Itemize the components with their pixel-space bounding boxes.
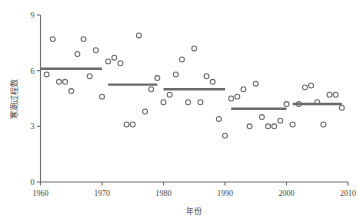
data-point: [253, 81, 258, 86]
data-point: [247, 124, 252, 129]
data-point: [241, 87, 246, 92]
y-tick-label: 6: [31, 67, 35, 76]
data-point: [143, 109, 148, 114]
x-tick-label: 2010: [340, 189, 356, 198]
data-point: [118, 61, 123, 66]
data-point: [81, 37, 86, 42]
data-point: [167, 92, 172, 97]
data-point: [278, 118, 283, 123]
data-point: [284, 102, 289, 107]
chart-container: 0369196019701980199020002010年份寒潮过程数: [0, 0, 357, 222]
data-point: [75, 52, 80, 57]
data-point: [149, 87, 154, 92]
data-point: [100, 94, 105, 99]
data-point: [290, 122, 295, 127]
data-point: [339, 105, 344, 110]
y-axis-title: 寒潮过程数: [9, 79, 19, 119]
data-point: [259, 115, 264, 120]
data-point: [186, 100, 191, 105]
data-point: [124, 122, 129, 127]
data-point: [303, 85, 308, 90]
data-point: [192, 46, 197, 51]
data-point: [57, 79, 62, 84]
data-point: [63, 79, 68, 84]
data-point: [309, 83, 314, 88]
y-tick-label: 0: [31, 178, 35, 187]
x-tick-label: 1980: [156, 189, 172, 198]
data-point: [93, 48, 98, 53]
x-tick-label: 2000: [279, 189, 295, 198]
data-point: [106, 59, 111, 64]
y-tick-label: 9: [31, 11, 35, 20]
x-tick-label: 1990: [217, 189, 233, 198]
data-point: [161, 100, 166, 105]
data-point: [87, 74, 92, 79]
data-point: [266, 124, 271, 129]
y-tick-label: 3: [31, 122, 35, 131]
data-point: [198, 100, 203, 105]
data-point: [155, 76, 160, 81]
data-point: [216, 116, 221, 121]
data-point: [173, 72, 178, 77]
data-point: [223, 133, 228, 138]
data-point: [333, 92, 338, 97]
data-point: [130, 122, 135, 127]
x-tick-label: 1970: [94, 189, 110, 198]
data-point: [44, 72, 49, 77]
x-tick-label: 1960: [33, 189, 49, 198]
data-point: [69, 89, 74, 94]
data-point: [229, 96, 234, 101]
x-axis-title: 年份: [186, 206, 202, 216]
data-point: [136, 33, 141, 38]
data-point: [272, 124, 277, 129]
data-point: [327, 92, 332, 97]
data-point: [112, 55, 117, 60]
data-point: [204, 74, 209, 79]
data-point: [180, 57, 185, 62]
scatter-plot: 0369196019701980199020002010年份寒潮过程数: [0, 0, 357, 222]
data-point: [321, 122, 326, 127]
data-point: [50, 37, 55, 42]
data-point: [210, 79, 215, 84]
data-point: [235, 94, 240, 99]
